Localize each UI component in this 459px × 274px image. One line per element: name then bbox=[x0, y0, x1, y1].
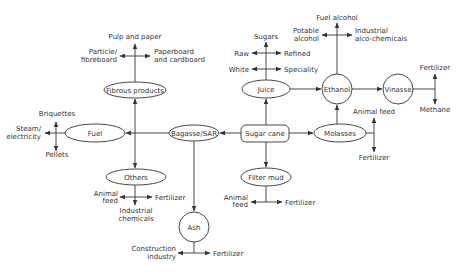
node-label: Filter mud bbox=[248, 174, 283, 182]
node-label: Ethanol bbox=[324, 86, 351, 94]
label-industrial: Industrial bbox=[120, 207, 153, 215]
label-refined: Refined bbox=[284, 50, 310, 58]
node-others: Others bbox=[106, 169, 166, 185]
node-label: Fuel bbox=[88, 130, 102, 138]
node-label: Ash bbox=[188, 224, 201, 232]
label-animal-feed: Animal feed bbox=[353, 108, 395, 116]
node-label: Bagasse/SAR bbox=[171, 130, 217, 138]
node-label: Juice bbox=[257, 86, 275, 94]
label-particle: Particle/ bbox=[89, 48, 118, 56]
label-and-cardboard: and cardboard bbox=[154, 56, 205, 64]
label-pellets: Pellets bbox=[46, 151, 69, 159]
label-fuel-alcohol: Fuel alcohol bbox=[316, 14, 358, 22]
node-fibrous-products: Fibrous products bbox=[104, 82, 166, 98]
node-label: Sugar cane bbox=[245, 130, 285, 138]
label-potable: Potable bbox=[293, 27, 319, 35]
node-label: Others bbox=[124, 174, 148, 182]
node-molasses: Molasses bbox=[314, 124, 366, 142]
label-alco-chemicals: alco-chemicals bbox=[355, 35, 407, 43]
node-ash: Ash bbox=[179, 212, 209, 242]
label-industrial: Industrial bbox=[355, 27, 388, 35]
node-fuel: Fuel bbox=[65, 124, 125, 142]
node-juice: Juice bbox=[242, 80, 290, 98]
node-label: Vinasse bbox=[385, 86, 412, 94]
label-fertilizer: Fertilizer bbox=[213, 250, 243, 258]
label-paperboard: Paperboard bbox=[154, 48, 194, 56]
label-construction: Construction bbox=[131, 245, 176, 253]
label-sugars: Sugars bbox=[254, 33, 278, 41]
label-feed: feed bbox=[102, 197, 118, 205]
node-label: Molasses bbox=[324, 130, 356, 138]
label-speciality: Speciality bbox=[284, 66, 318, 74]
label-chemicals: chemicals bbox=[118, 215, 153, 223]
node-ethanol: Ethanol bbox=[322, 74, 352, 104]
node-bagasse: Bagasse/SAR bbox=[169, 125, 219, 141]
label-fertilizer: Fertilizer bbox=[420, 64, 450, 72]
label-raw: Raw bbox=[234, 50, 249, 58]
label-fertilizer: Fertilizer bbox=[285, 199, 315, 207]
label-fibreboard: fibreboard bbox=[81, 56, 117, 64]
label-alcohol: alcohol bbox=[294, 35, 319, 43]
node-filter-mud: Filter mud bbox=[241, 168, 291, 186]
label-briquettes: Briquettes bbox=[39, 110, 76, 118]
label-feed: feed bbox=[232, 201, 248, 209]
label-steam: Steam/ bbox=[16, 125, 42, 133]
label-methane: Methane bbox=[420, 106, 451, 114]
label-fertilizer: Fertilizer bbox=[359, 154, 389, 162]
label-electricity: electricity bbox=[6, 133, 41, 141]
label-pulp-and-paper: Pulp and paper bbox=[109, 33, 162, 41]
label-white: White bbox=[229, 66, 249, 74]
sugarcane-products-diagram: Sugar cane Bagasse/SAR Molasses Juice Et… bbox=[0, 0, 459, 274]
node-sugar-cane: Sugar cane bbox=[241, 125, 289, 142]
node-vinasse: Vinasse bbox=[383, 74, 413, 104]
node-label: Fibrous products bbox=[106, 87, 164, 95]
label-fertilizer: Fertilizer bbox=[155, 194, 185, 202]
label-industry: industry bbox=[147, 253, 176, 261]
